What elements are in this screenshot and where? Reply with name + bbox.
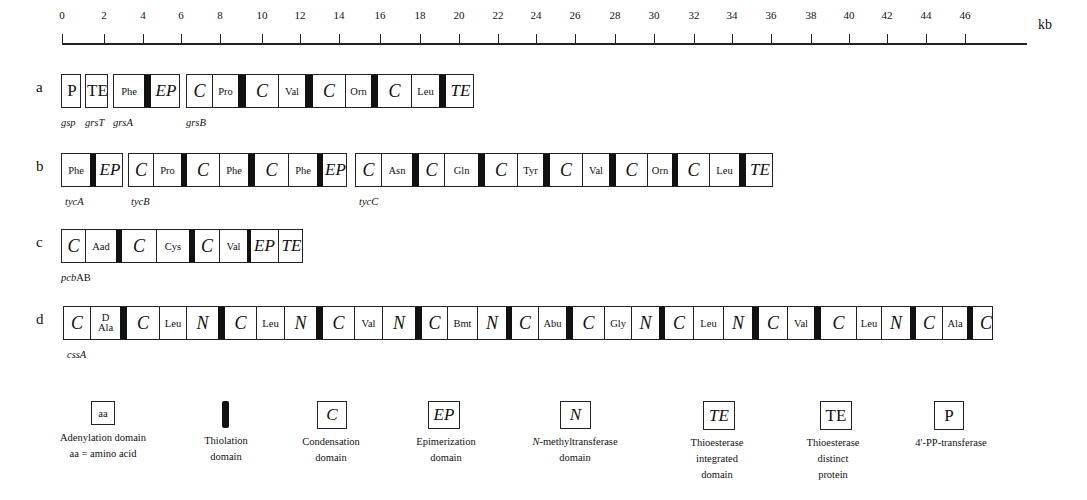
- tick-label: 8: [217, 9, 223, 21]
- legend-line: domain: [204, 449, 248, 465]
- tick-mark: [536, 34, 538, 44]
- legend-symbol: TE: [703, 401, 735, 430]
- tick-mark: [459, 34, 461, 44]
- thiolation-domain: [316, 307, 323, 339]
- tick-label: 14: [334, 9, 345, 21]
- tick-label: 34: [727, 9, 738, 21]
- tick-mark: [732, 34, 734, 44]
- tick-mark: [104, 34, 106, 44]
- adenylation-domain-leu: Leu: [256, 307, 284, 339]
- gene-label: pcbAB: [61, 272, 91, 283]
- condensation-domain: C: [616, 154, 647, 186]
- thiolation-domain: [218, 307, 225, 339]
- tick-label: 44: [921, 9, 932, 21]
- condensation-domain: C: [821, 307, 856, 339]
- tick-mark: [575, 34, 577, 44]
- adenylation-domain-ala: Ala: [942, 307, 967, 339]
- thiolation-domain: [609, 154, 616, 186]
- adenylation-domain-gly: Gly: [604, 307, 631, 339]
- gene-block-grsB: CProCValCOrnCLeuTE: [186, 74, 474, 108]
- tick-label: 24: [531, 9, 542, 21]
- condensation-domain: C: [255, 154, 288, 186]
- epimerization-domain: EP: [96, 154, 123, 186]
- legend-line: domain: [690, 467, 743, 483]
- condensation-domain: C: [378, 75, 411, 107]
- thiolation-domain: [814, 307, 821, 339]
- n-methyltransferase-domain: N: [631, 307, 659, 339]
- tick-label: 18: [415, 9, 426, 21]
- tick-mark: [615, 34, 617, 44]
- tick-mark: [220, 34, 222, 44]
- n-methyltransferase-domain: N: [723, 307, 752, 339]
- gene-block-pcbAB: CAadCCysCValEPTE: [61, 229, 303, 263]
- adenylation-domain-pro: Pro: [212, 75, 238, 107]
- legend-line: protein: [806, 467, 859, 483]
- tick-mark: [849, 34, 851, 44]
- legend-description: Epimerizationdomain: [416, 434, 475, 466]
- thiolation-domain: [478, 154, 485, 186]
- condensation-domain: C: [62, 230, 85, 262]
- condensation-domain: C: [122, 230, 156, 262]
- tick-mark: [694, 34, 696, 44]
- tick-label: 6: [178, 9, 184, 21]
- epimerization-domain: EP: [251, 230, 278, 262]
- tick-mark: [143, 34, 145, 44]
- adenylation-domain-cys: Cys: [156, 230, 189, 262]
- tick-label: 22: [493, 9, 504, 21]
- adenylation-domain-d-ala: DAla: [90, 307, 120, 339]
- gene-label: grsB: [186, 117, 206, 128]
- adenylation-domain-phe: Phe: [114, 75, 144, 107]
- tick-label: 46: [960, 9, 971, 21]
- condensation-domain: C: [313, 75, 345, 107]
- tick-mark: [811, 34, 813, 44]
- epimerization-domain: EP: [151, 75, 180, 107]
- adenylation-domain-orn: Orn: [647, 154, 672, 186]
- n-methyltransferase-domain: N: [382, 307, 415, 339]
- gene-block-gsp: P: [61, 74, 81, 108]
- tick-mark: [181, 34, 183, 44]
- condensation-domain: C: [422, 307, 447, 339]
- tick-label: 40: [844, 9, 855, 21]
- adenylation-domain-phe: Phe: [288, 154, 317, 186]
- legend-line: 4'-PP-transferase: [915, 435, 986, 451]
- legend-description: Thioesterasedistinctprotein: [806, 435, 859, 483]
- gene-block-tycA: PheEP: [61, 153, 123, 187]
- condensation-domain: C: [973, 307, 993, 339]
- adenylation-domain-val: Val: [354, 307, 382, 339]
- pp-transferase-domain: P: [62, 75, 81, 107]
- thiolation-domain: [739, 154, 746, 186]
- tick-label: 26: [570, 9, 581, 21]
- n-methyltransferase-domain: N: [881, 307, 910, 339]
- n-methyltransferase-domain: N: [477, 307, 506, 339]
- condensation-domain: C: [64, 307, 90, 339]
- legend-line: Thioesterase: [806, 435, 859, 451]
- adenylation-domain-phe: Phe: [219, 154, 248, 186]
- adenylation-domain-phe: Phe: [62, 154, 90, 186]
- thioesterase-domain: TE: [86, 75, 108, 107]
- adenylation-domain-bmt: Bmt: [447, 307, 477, 339]
- row-label-b: b: [36, 158, 44, 175]
- adenylation-domain-pro: Pro: [153, 154, 181, 186]
- n-methyltransferase-domain: N: [186, 307, 218, 339]
- epimerization-domain: EP: [323, 154, 347, 186]
- legend-description: Thiolationdomain: [204, 433, 248, 465]
- axis-line: [62, 43, 1027, 45]
- legend-description: Adenylation domainaa = amino acid: [60, 430, 146, 462]
- legend-description: 4'-PP-transferase: [915, 435, 986, 451]
- adenylation-domain-leu: Leu: [159, 307, 186, 339]
- row-label-c: c: [36, 234, 43, 251]
- legend-line: domain: [532, 450, 617, 466]
- adenylation-domain-val: Val: [278, 75, 305, 107]
- tick-mark: [498, 34, 500, 44]
- n-methyltransferase-domain: N: [284, 307, 316, 339]
- condensation-domain: C: [573, 307, 604, 339]
- row-label-d: d: [36, 311, 44, 328]
- thioesterase-domain: TE: [746, 154, 773, 186]
- condensation-domain: C: [916, 307, 942, 339]
- legend-description: Thioesteraseintegrateddomain: [690, 435, 743, 483]
- thiolation-domain: [305, 75, 313, 107]
- adenylation-domain-val: Val: [582, 154, 609, 186]
- condensation-domain: C: [127, 307, 159, 339]
- legend-line: Thiolation: [204, 433, 248, 449]
- tick-mark: [771, 34, 773, 44]
